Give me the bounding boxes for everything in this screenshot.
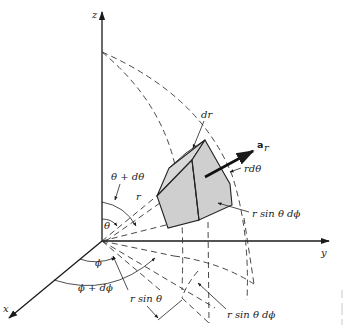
r-sin-theta-dphi-lower-pointer bbox=[198, 283, 226, 309]
x-axis bbox=[9, 241, 102, 318]
theta-annotation: θ bbox=[102, 219, 117, 231]
dr-label: dr bbox=[201, 109, 213, 120]
r-sin-theta-label: r sin θ bbox=[130, 293, 162, 304]
axes: z y x bbox=[3, 9, 329, 318]
ar-label: a bbox=[257, 139, 263, 150]
r-sin-theta-dphi-lower-label: r sin θ dϕ bbox=[227, 309, 276, 320]
phi-label: ϕ bbox=[95, 257, 102, 268]
ar-label-sub: r bbox=[264, 142, 270, 153]
spherical-volume-element-diagram: z y x a r bbox=[0, 0, 343, 329]
rdtheta-annotation: rdθ bbox=[230, 163, 261, 174]
projection-drop-mid bbox=[208, 222, 209, 323]
z-axis-label: z bbox=[91, 9, 98, 20]
phi-dphi-label: ϕ + dϕ bbox=[78, 282, 113, 293]
projection-connector bbox=[182, 298, 209, 323]
phi-annotation: ϕ bbox=[80, 257, 115, 268]
y-axis-label: y bbox=[320, 247, 327, 258]
projection-arc-outer bbox=[174, 256, 254, 284]
r-sin-theta-annotation: r sin θ bbox=[113, 256, 182, 320]
r-label: r bbox=[136, 191, 142, 202]
rdtheta-label: rdθ bbox=[244, 163, 261, 174]
r-sin-theta-arrow-down bbox=[147, 306, 158, 318]
ray-r-lower bbox=[106, 203, 160, 241]
volume-element bbox=[157, 140, 232, 228]
theta-label: θ bbox=[104, 220, 110, 231]
rdtheta-pointer bbox=[230, 168, 241, 172]
theta-dtheta-label: θ + dθ bbox=[111, 171, 144, 182]
theta-dtheta-pointer bbox=[115, 184, 120, 200]
r-sin-theta-dphi-upper-label: r sin θ dϕ bbox=[252, 208, 301, 219]
ray-r-upper bbox=[102, 195, 158, 241]
projection-arc-inner bbox=[182, 271, 198, 298]
ray-phi bbox=[102, 241, 174, 256]
r-sin-theta-dphi-lower-annotation: r sin θ dϕ bbox=[198, 283, 276, 320]
projection-drop-right bbox=[244, 218, 254, 284]
x-axis-label: x bbox=[3, 303, 9, 314]
